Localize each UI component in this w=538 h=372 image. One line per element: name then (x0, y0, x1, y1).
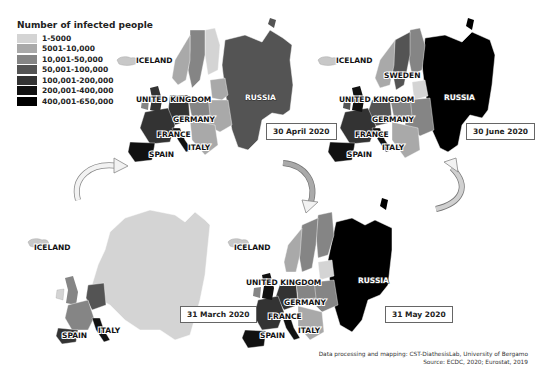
label-spain: SPAIN (62, 331, 87, 340)
arrow-april-to-may (283, 163, 318, 213)
label-germany: GERMANY (284, 298, 327, 307)
legend-title: Number of infected people (17, 20, 153, 30)
legend-swatch (17, 44, 37, 53)
label-france: FRANCE (355, 130, 389, 139)
legend-item: 400,001-650,000 (17, 96, 153, 106)
label-germany: GERMANY (173, 115, 216, 124)
legend-item: 10,001-50,000 (17, 54, 153, 64)
credits-mapping: Data processing and mapping: CST-Diathes… (319, 350, 528, 358)
arrow-march-to-april (77, 158, 128, 200)
legend-label: 400,001-650,000 (42, 97, 113, 106)
label-iceland: ICELAND (34, 243, 71, 252)
credits-source: Source: ECDC, 2020; Eurostat, 2019 (319, 358, 528, 366)
legend-item: 100,001-200,000 (17, 75, 153, 85)
label-italy: ITALY (382, 143, 405, 152)
legend-swatch (17, 76, 37, 85)
legend-item: 5001-10,000 (17, 44, 153, 54)
label-sweden: SWEDEN (384, 71, 420, 80)
legend-item: 1-5000 (17, 33, 153, 43)
arrow-may-to-june (436, 158, 462, 209)
label-russia: RUSSIA (444, 93, 475, 102)
label-italy: ITALY (98, 326, 121, 335)
label-uk: UNITED KINGDOM (339, 95, 414, 104)
map-june: ICELAND SWEDEN UNITED KINGDOM GERMANY FR… (318, 18, 495, 162)
legend-swatch (17, 97, 37, 106)
label-italy: ITALY (298, 326, 321, 335)
label-spain: SPAIN (260, 331, 285, 340)
legend-label: 50,001-100,000 (42, 65, 108, 74)
legend-label: 200,001-400,000 (42, 86, 113, 95)
legend-label: 5001-10,000 (42, 44, 95, 53)
label-russia: RUSSIA (358, 276, 389, 285)
legend-swatch (17, 65, 37, 74)
label-france: FRANCE (157, 130, 191, 139)
label-russia: RUSSIA (245, 93, 276, 102)
legend-label: 10,001-50,000 (42, 55, 103, 64)
legend-item: 50,001-100,000 (17, 65, 153, 75)
date-label-june: 30 June 2020 (466, 123, 535, 140)
map-may: ICELAND UNITED KINGDOM GERMANY FRANCE SP… (228, 198, 392, 348)
label-france: FRANCE (268, 312, 302, 321)
legend-swatch (17, 55, 37, 64)
date-label-march: 31 March 2020 (180, 306, 257, 323)
legend-label: 100,001-200,000 (42, 76, 113, 85)
label-uk: UNITED KINGDOM (246, 278, 321, 287)
label-germany: GERMANY (372, 115, 415, 124)
label-spain: SPAIN (149, 150, 174, 159)
legend-item: 200,001-400,000 (17, 86, 153, 96)
credits: Data processing and mapping: CST-Diathes… (319, 350, 528, 366)
legend: Number of infected people 1-5000 5001-10… (17, 20, 153, 107)
label-iceland: ICELAND (336, 56, 373, 65)
label-italy: ITALY (188, 143, 211, 152)
label-spain: SPAIN (347, 150, 372, 159)
date-label-may: 31 May 2020 (385, 306, 453, 323)
legend-swatch (17, 86, 37, 95)
legend-swatch (17, 34, 37, 43)
legend-label: 1-5000 (42, 34, 71, 43)
map-march: ICELAND SPAIN ITALY (28, 210, 210, 344)
label-iceland: ICELAND (234, 243, 271, 252)
date-label-april: 30 April 2020 (266, 123, 337, 140)
